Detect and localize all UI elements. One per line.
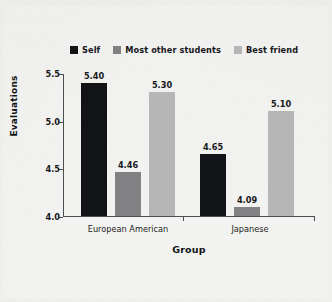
legend-swatch-most-other-students: [113, 46, 121, 54]
x-axis-line: [63, 216, 315, 217]
plot-area: 4.0 4.5 5.0 5.5 5.40 4.46 5.30 Europ: [63, 74, 315, 217]
legend-item-self: Self: [70, 45, 100, 55]
bar-japanese-most-other-students: 4.09: [234, 207, 260, 216]
bar-european-american-self: 5.40: [81, 83, 107, 217]
chart-legend: Self Most other students Best friend: [70, 45, 298, 55]
legend-label-self: Self: [82, 45, 100, 55]
bar-japanese-self: 4.65: [200, 154, 226, 216]
y-tick-label-4-5: 4.5: [45, 164, 60, 174]
x-tick-group-separator: [183, 217, 184, 221]
legend-item-most-other-students: Most other students: [113, 45, 221, 55]
x-group-label-european-american: European American: [88, 224, 169, 234]
y-tick-label-5-0: 5.0: [45, 117, 60, 127]
legend-swatch-best-friend: [234, 46, 242, 54]
y-tick-label-4-0: 4.0: [45, 212, 60, 222]
bar-value-european-american-best-friend: 5.30: [152, 80, 172, 90]
y-axis-line: [63, 74, 64, 217]
bar-value-european-american-most-other-students: 4.46: [118, 160, 138, 170]
bar-value-european-american-self: 5.40: [84, 71, 104, 81]
legend-swatch-self: [70, 46, 78, 54]
bar-value-japanese-best-friend: 5.10: [271, 99, 291, 109]
y-axis-title: Evaluations: [9, 75, 19, 136]
legend-item-best-friend: Best friend: [234, 45, 298, 55]
bar-japanese-best-friend: 5.10: [268, 111, 294, 216]
legend-label-best-friend: Best friend: [246, 45, 298, 55]
bar-european-american-most-other-students: 4.46: [115, 172, 141, 216]
legend-label-most-other-students: Most other students: [125, 45, 221, 55]
y-tick-label-5-5: 5.5: [45, 69, 60, 79]
bar-european-american-best-friend: 5.30: [149, 92, 175, 216]
bar-value-japanese-self: 4.65: [203, 142, 223, 152]
chart-figure: Self Most other students Best friend 4.0…: [0, 0, 332, 302]
bar-value-japanese-most-other-students: 4.09: [237, 195, 257, 205]
x-tick-axis-end: [314, 217, 315, 221]
x-group-label-japanese: Japanese: [231, 224, 268, 234]
x-axis-title: Group: [172, 244, 206, 255]
